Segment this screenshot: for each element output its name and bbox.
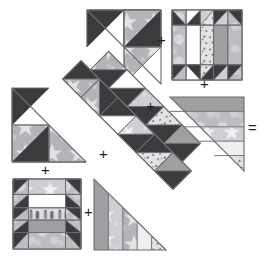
operator-plus-bottom-mid: + — [84, 204, 93, 219]
operator-equals-right: = — [248, 120, 257, 135]
unit-bottom-left-block — [13, 179, 81, 249]
operator-plus-center-right: + — [146, 98, 155, 113]
operator-plus-center-left: + — [99, 146, 108, 161]
operator-plus-right-mid: + — [200, 76, 209, 91]
unit-right-triangle — [170, 97, 244, 171]
operator-plus-top-right: + — [157, 32, 166, 47]
quilt-diagram-canvas: + + + + + + = — [0, 0, 263, 259]
unit-bottom-triangle — [94, 179, 166, 250]
operator-plus-bottom-left: + — [41, 162, 50, 177]
